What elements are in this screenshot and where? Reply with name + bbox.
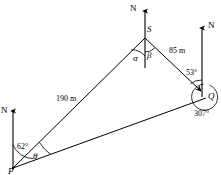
point-label-p: P bbox=[8, 167, 14, 175]
point-label-q: Q bbox=[208, 92, 215, 101]
angle-label-beta: β bbox=[147, 51, 151, 60]
north-label-q: N bbox=[208, 21, 215, 30]
angle-arc-theta bbox=[39, 142, 50, 154]
length-label-sq: 85 m bbox=[169, 47, 185, 55]
angle-label-307: 307° bbox=[194, 110, 209, 118]
angle-label-53: 53° bbox=[186, 69, 197, 77]
angle-label-theta: θ bbox=[33, 152, 37, 161]
north-label-p: N bbox=[1, 106, 8, 115]
length-label-ps: 190 m bbox=[56, 95, 76, 103]
point-label-s: S bbox=[147, 25, 152, 34]
angle-label-62: 62° bbox=[17, 143, 28, 151]
bearing-diagram: S Q P N N N 190 m 85 m α β θ 62° 53° 307… bbox=[0, 0, 221, 175]
side-pq-line bbox=[13, 98, 206, 168]
side-ps-line bbox=[13, 38, 145, 168]
angle-label-alpha: α bbox=[133, 54, 138, 63]
diagram-canvas bbox=[0, 0, 221, 175]
north-label-s: N bbox=[130, 4, 137, 13]
